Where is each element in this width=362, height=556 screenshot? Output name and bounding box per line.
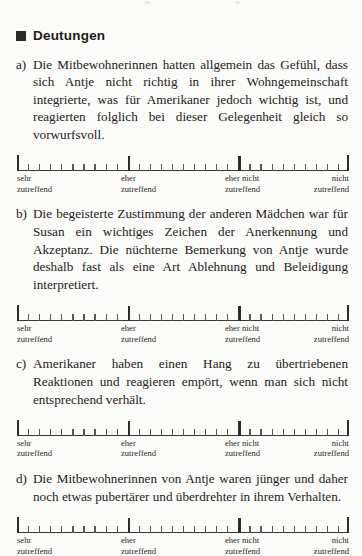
rating-scale-label-line1: eher nicht — [225, 438, 259, 448]
rating-scale-ruler[interactable] — [17, 304, 349, 321]
rating-scale-minor-tick — [249, 314, 250, 321]
rating-scale-minor-tick — [94, 164, 95, 171]
rating-scale-label-line2: zutreffend — [225, 184, 260, 194]
interpretation-item: b)Die begeisterte Zustimmung der anderen… — [16, 205, 348, 342]
rating-scale-label: nichtzutreffend — [314, 535, 349, 555]
rating-scale-label-line2: zutreffend — [121, 448, 156, 458]
rating-scale-endcap-tick — [17, 420, 19, 436]
rating-scale-minor-tick — [194, 164, 195, 171]
rating-scale-label-line1: eher — [121, 438, 136, 448]
rating-scale-label: sehrzutreffend — [17, 535, 52, 555]
rating-scale-label-line2: zutreffend — [314, 546, 349, 556]
rating-scale-minor-tick — [294, 429, 295, 436]
rating-scale-label: eher nichtzutreffend — [225, 173, 260, 193]
rating-scale-minor-tick — [61, 314, 62, 321]
rating-scale-minor-tick — [50, 429, 51, 436]
rating-scale-minor-tick — [83, 164, 84, 171]
rating-scale-minor-tick — [72, 164, 73, 171]
rating-scale[interactable]: sehrzutreffendeherzutreffendeher nichtzu… — [17, 419, 349, 457]
rating-scale-major-tick — [128, 306, 130, 321]
rating-scale-ruler[interactable] — [17, 419, 349, 436]
rating-scale-labels: sehrzutreffendeherzutreffendeher nichtzu… — [17, 438, 349, 459]
rating-scale-label-line1: sehr — [17, 535, 31, 545]
rating-scale-label-line2: zutreffend — [121, 184, 156, 194]
rating-scale-label-line1: sehr — [17, 323, 31, 333]
rating-scale-ruler[interactable] — [17, 516, 349, 533]
rating-scale-minor-tick — [106, 526, 107, 533]
rating-scale-minor-tick — [194, 314, 195, 321]
rating-scale-label-line1: nicht — [314, 438, 349, 448]
rating-scale-label: sehrzutreffend — [17, 438, 52, 458]
rating-scale-minor-tick — [272, 164, 273, 171]
rating-scale-minor-tick — [50, 314, 51, 321]
rating-scale-label-line2: zutreffend — [17, 546, 52, 556]
rating-scale-label-line1: nicht — [314, 535, 349, 545]
rating-scale-minor-tick — [305, 429, 306, 436]
rating-scale-labels: sehrzutreffendeherzutreffendeher nichtzu… — [17, 173, 349, 194]
rating-scale-label-line1: eher — [121, 323, 136, 333]
rating-scale-minor-tick — [72, 314, 73, 321]
rating-scale-label-line2: zutreffend — [17, 448, 52, 458]
rating-scale-minor-tick — [61, 164, 62, 171]
rating-scale-minor-tick — [28, 526, 29, 533]
rating-scale-minor-tick — [260, 314, 261, 321]
rating-scale-minor-tick — [227, 429, 228, 436]
rating-scale-minor-tick — [305, 526, 306, 533]
rating-scale-label-line1: eher nicht — [225, 173, 259, 183]
rating-scale-minor-tick — [150, 314, 151, 321]
rating-scale-minor-tick — [316, 429, 317, 436]
rating-scale-labels: sehrzutreffendeherzutreffendeher nichtzu… — [17, 323, 349, 344]
rating-scale-labels: sehrzutreffendeherzutreffendeher nichtzu… — [17, 535, 349, 556]
rating-scale-label-line2: zutreffend — [314, 184, 349, 194]
rating-scale-minor-tick — [216, 314, 217, 321]
rating-scale-minor-tick — [139, 526, 140, 533]
rating-scale-minor-tick — [272, 314, 273, 321]
rating-scale-label: eherzutreffend — [121, 323, 156, 343]
rating-scale-minor-tick — [94, 429, 95, 436]
rating-scale-label-line2: zutreffend — [17, 184, 52, 194]
rating-scale-minor-tick — [205, 429, 206, 436]
rating-scale-minor-tick — [283, 314, 284, 321]
rating-scale-endcap-tick — [347, 420, 349, 436]
rating-scale-minor-tick — [117, 164, 118, 171]
rating-scale-minor-tick — [316, 164, 317, 171]
rating-scale-minor-tick — [316, 526, 317, 533]
rating-scale-minor-tick — [39, 314, 40, 321]
rating-scale-endcap-tick — [347, 305, 349, 321]
rating-scale-label-line1: sehr — [17, 438, 31, 448]
rating-scale[interactable]: sehrzutreffendeherzutreffendeher nichtzu… — [17, 154, 349, 192]
rating-scale-label-line2: zutreffend — [314, 334, 349, 344]
item-text: Die Mitbewohnerinnen von Antje waren jün… — [33, 470, 348, 505]
rating-scale-label-line2: zutreffend — [225, 546, 260, 556]
rating-scale-label: eherzutreffend — [121, 438, 156, 458]
rating-scale-minor-tick — [183, 164, 184, 171]
interpretation-item: c)Amerikaner haben einen Hang zu übertri… — [16, 355, 348, 457]
rating-scale-minor-tick — [216, 526, 217, 533]
rating-scale-minor-tick — [205, 164, 206, 171]
rating-scale-minor-tick — [272, 429, 273, 436]
item-text: Die begeisterte Zustimmung der anderen M… — [33, 205, 348, 293]
item-text: Die Mitbewohnerinnen hatten allgemein da… — [33, 56, 348, 144]
rating-scale-minor-tick — [83, 314, 84, 321]
rating-scale[interactable]: sehrzutreffendeherzutreffendeher nichtzu… — [17, 516, 349, 554]
rating-scale-major-tick — [128, 156, 130, 171]
rating-scale-minor-tick — [61, 429, 62, 436]
rating-scale-minor-tick — [161, 314, 162, 321]
rating-scale-minor-tick — [327, 314, 328, 321]
rating-scale-minor-tick — [283, 164, 284, 171]
rating-scale-minor-tick — [28, 164, 29, 171]
rating-scale-ruler[interactable] — [17, 154, 349, 171]
rating-scale-label-line1: eher nicht — [225, 535, 259, 545]
rating-scale-minor-tick — [172, 314, 173, 321]
item-marker: d) — [16, 470, 33, 488]
rating-scale-minor-tick — [39, 526, 40, 533]
rating-scale-label-line1: sehr — [17, 173, 31, 183]
rating-scale-label: eherzutreffend — [121, 173, 156, 193]
rating-scale-minor-tick — [139, 429, 140, 436]
rating-scale-minor-tick — [294, 314, 295, 321]
rating-scale-label-line2: zutreffend — [121, 334, 156, 344]
item-marker: c) — [16, 355, 33, 373]
rating-scale[interactable]: sehrzutreffendeherzutreffendeher nichtzu… — [17, 304, 349, 342]
rating-scale-endcap-tick — [17, 517, 19, 533]
